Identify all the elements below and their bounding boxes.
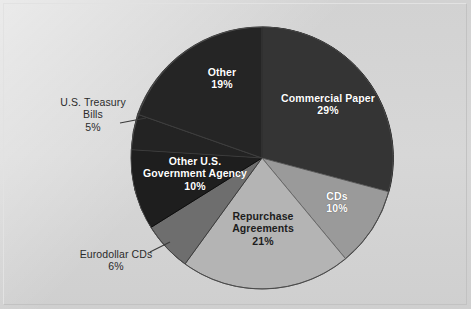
chart-screenshot: Commercial Paper 29% CDs 10% Repurchase …: [0, 0, 471, 309]
slice-label-text-2: Government Agency: [128, 167, 262, 179]
slice-label-repurchase-agreements: Repurchase Agreements 21%: [208, 210, 318, 247]
slice-label-us-treasury-bills: U.S. Treasury Bills 5%: [40, 96, 146, 133]
slice-label-commercial-paper: Commercial Paper 29%: [268, 92, 388, 117]
slice-label-text-2: Bills: [40, 108, 146, 120]
slice-label-other: Other 19%: [184, 66, 260, 91]
slice-label-eurodollar-cds: Eurodollar CDs 6%: [58, 248, 174, 273]
slice-label-other-us-government-agency: Other U.S. Government Agency 10%: [128, 155, 262, 192]
slice-label-text: Other: [184, 66, 260, 78]
slice-label-text: U.S. Treasury: [40, 96, 146, 108]
slice-label-percent: 6%: [58, 260, 174, 272]
slice-label-text: Commercial Paper: [268, 92, 388, 104]
slice-label-percent: 10%: [128, 180, 262, 192]
slice-label-percent: 29%: [268, 104, 388, 116]
slice-label-text: CDs: [305, 190, 369, 202]
slice-label-percent: 5%: [40, 121, 146, 133]
slice-label-percent: 21%: [208, 235, 318, 247]
slice-label-text: Eurodollar CDs: [58, 248, 174, 260]
slice-label-text: Other U.S.: [128, 155, 262, 167]
slice-label-text-2: Agreements: [208, 222, 318, 234]
slice-label-text: Repurchase: [208, 210, 318, 222]
slice-label-percent: 19%: [184, 78, 260, 90]
